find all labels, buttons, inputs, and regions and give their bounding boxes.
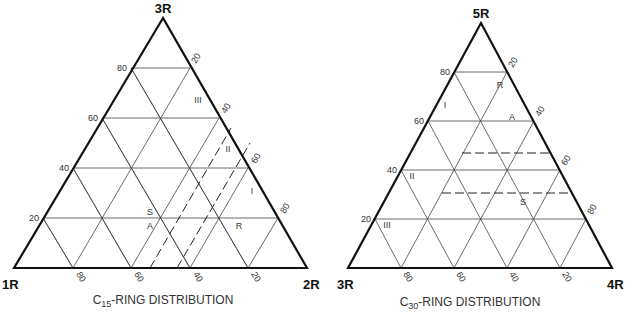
c15-bottom-tick-40: 40 <box>191 270 205 284</box>
c30-right-tick-20: 20 <box>506 55 520 69</box>
c30-vertex-top: 5R <box>473 6 490 21</box>
c30-bottom-tick-80: 80 <box>401 270 415 284</box>
c30-point-R: R <box>497 80 504 90</box>
c15-vertex-right: 2R <box>303 277 320 292</box>
c30-grid <box>375 72 586 268</box>
c15-bottom-tick-60: 60 <box>132 270 146 284</box>
c30-region-II: II <box>409 171 414 181</box>
c15-vertex-top: 3R <box>155 1 172 16</box>
c30-point-A: A <box>509 112 515 122</box>
c30-left-tick-20: 20 <box>361 214 371 224</box>
c15-dashed-line-2 <box>177 143 250 268</box>
c30-ternary-chart: 5R 3R 4R 20 40 60 80 20 40 60 80 80 60 4… <box>337 6 624 311</box>
c15-point-S: S <box>147 207 153 217</box>
c30-triangle-outline <box>348 23 612 268</box>
c15-right-tick-20: 20 <box>189 51 203 65</box>
c30-right-tick-40: 40 <box>533 104 547 118</box>
c30-bottom-tick-20: 20 <box>560 270 574 284</box>
c30-region-I: I <box>444 100 447 110</box>
c15-right-tick-60: 60 <box>249 151 263 165</box>
c15-bottom-tick-80: 80 <box>74 270 88 284</box>
c30-right-tick-80: 80 <box>585 202 599 216</box>
c15-left-tick-80: 80 <box>117 63 127 73</box>
c15-vertex-left: 1R <box>2 277 19 292</box>
c15-left-tick-40: 40 <box>59 163 69 173</box>
c15-region-I: I <box>251 186 254 196</box>
c30-right-tick-60: 60 <box>559 153 573 167</box>
c30-left-tick-80: 80 <box>440 67 450 77</box>
c30-bottom-tick-60: 60 <box>454 270 468 284</box>
c30-bottom-tick-40: 40 <box>507 270 521 284</box>
c30-point-S: S <box>520 197 526 207</box>
c15-dashed-line-1 <box>150 128 231 268</box>
c15-point-R: R <box>236 221 243 231</box>
c30-left-tick-40: 40 <box>387 165 397 175</box>
c15-left-tick-20: 20 <box>29 213 39 223</box>
c15-region-III: III <box>194 95 202 105</box>
c15-left-tick-60: 60 <box>88 113 98 123</box>
c15-caption: C15-RING DISTRIBUTION <box>93 293 234 309</box>
c15-triangle-outline <box>14 18 307 268</box>
c15-ternary-chart: 3R 1R 2R 20 40 60 80 20 40 60 80 80 60 4… <box>2 1 320 309</box>
c30-vertex-left: 3R <box>337 277 354 292</box>
c15-point-A: A <box>147 221 153 231</box>
c30-region-III: III <box>383 220 391 230</box>
c30-caption: C30-RING DISTRIBUTION <box>400 295 541 311</box>
ternary-diagrams: 3R 1R 2R 20 40 60 80 20 40 60 80 80 60 4… <box>0 0 632 317</box>
c30-vertex-right: 4R <box>607 277 624 292</box>
c15-region-II: II <box>225 144 230 154</box>
c30-left-tick-60: 60 <box>414 116 424 126</box>
c15-right-tick-40: 40 <box>219 101 233 115</box>
c15-right-tick-80: 80 <box>278 201 292 215</box>
c15-bottom-tick-20: 20 <box>249 270 263 284</box>
c15-grid <box>43 68 278 268</box>
